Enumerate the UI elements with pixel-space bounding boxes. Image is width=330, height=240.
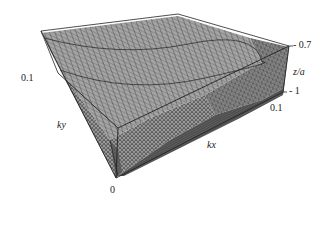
z-tick-bottom-label: - 1 [289, 86, 300, 96]
z-tick-top-label: - 0.7 [293, 40, 311, 50]
kx-axis-label: kx [207, 140, 216, 150]
ky-tick-max-label: 0.1 [21, 73, 34, 83]
z-axis-label: z/a [293, 67, 305, 77]
ky-axis-label: ky [57, 120, 66, 130]
origin-tick-label: 0 [110, 185, 115, 195]
kx-tick-max-label: 0.1 [270, 103, 283, 113]
